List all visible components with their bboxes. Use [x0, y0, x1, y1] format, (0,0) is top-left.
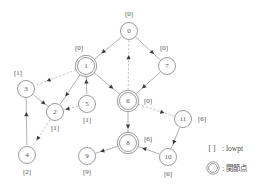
edge-line-back: [32, 120, 50, 147]
edge-0-1: [94, 37, 121, 59]
legend-label-articulation-point: 関節点: [226, 163, 248, 173]
legend-bracket-icon: [ ]: [209, 144, 216, 153]
lowpt-label-10: [6]: [164, 170, 172, 178]
lowpt-label-4: [2]: [23, 168, 31, 176]
legend-double-circle-inner-icon: [209, 164, 218, 173]
edge-arrow-icon: [84, 79, 88, 83]
edge-line-tree: [136, 37, 160, 59]
edge-arrow-icon: [126, 124, 130, 128]
edges-layer: [24, 37, 179, 154]
edge-4-3: [24, 98, 28, 145]
graph-node-11[interactable]: 11: [175, 111, 192, 128]
edge-arrow-icon: [126, 55, 130, 59]
node-label: 5: [85, 100, 89, 108]
graph-node-0[interactable]: 0: [121, 23, 138, 40]
edge-1-6: [94, 73, 120, 94]
legend-label-lowpt: lowpt: [226, 144, 244, 153]
node-label: 11: [180, 115, 187, 123]
lowpt-label-3: [1]: [14, 69, 22, 77]
node-label: 4: [25, 151, 29, 159]
node-label: 3: [24, 85, 28, 93]
edge-0-7: [136, 37, 160, 59]
edge-8-9: [96, 146, 118, 153]
edge-arrow-icon: [65, 92, 69, 97]
edge-arrow-icon: [41, 100, 46, 104]
edge-line-back: [128, 40, 129, 90]
edge-3-2: [33, 95, 47, 106]
graph-node-10[interactable]: 10: [160, 149, 177, 166]
edge-line-back: [138, 104, 174, 116]
edge-arrow-icon: [65, 106, 70, 110]
edge-1-2: [60, 75, 80, 104]
edge-10-8: [138, 147, 159, 154]
edge-line-tree: [94, 73, 120, 94]
node-label: 7: [165, 62, 169, 70]
node-label: 2: [53, 108, 57, 116]
legend-separator-2: :: [222, 164, 224, 173]
graph-node-3[interactable]: 3: [18, 81, 35, 98]
node-label: 8: [126, 139, 130, 147]
graph-node-8[interactable]: 8: [117, 132, 138, 153]
edge-line-tree: [96, 146, 118, 153]
edge-line-tree: [60, 75, 80, 104]
lowpt-label-9: [9]: [83, 168, 91, 176]
graph-node-9[interactable]: 9: [79, 148, 96, 165]
edge-arrow-icon: [46, 78, 51, 82]
lowpt-label-0: [0]: [125, 10, 133, 18]
legend-separator-1: :: [222, 144, 224, 153]
lowpt-label-5: [1]: [83, 116, 91, 124]
node-label: 1: [84, 62, 88, 70]
node-label: 0: [127, 27, 131, 35]
edge-line-tree: [26, 98, 27, 145]
lowpt-label-11: [6]: [198, 115, 206, 123]
lowpt-label-6: [0]: [144, 97, 152, 105]
edge-6-0: [126, 40, 130, 90]
node-label: 6: [126, 97, 130, 105]
lowpt-label-1: [0]: [75, 44, 83, 52]
edge-6-11: [138, 104, 174, 116]
lowpt-label-7: [0]: [160, 44, 168, 52]
node-label: 9: [85, 152, 89, 160]
legend-layer: [ ]:lowpt:関節点: [207, 144, 248, 175]
lowpt-label-8: [6]: [144, 135, 152, 143]
lowpt-label-2: [1]: [51, 124, 59, 132]
diagram-canvas: 0[0]1[0]2[1]3[1]4[2]5[1]6[0]7[0]8[6]9[9]…: [0, 0, 268, 188]
edge-line-tree: [136, 72, 160, 94]
node-label: 10: [165, 153, 173, 161]
edge-5-1: [84, 77, 88, 95]
edge-arrow-icon: [160, 110, 165, 114]
edge-arrow-icon: [24, 112, 28, 116]
edge-line-tree: [171, 128, 179, 149]
edge-line-tree: [33, 95, 47, 106]
graph-node-4[interactable]: 4: [19, 147, 36, 164]
edge-5-2: [64, 106, 78, 110]
edge-arrow-icon: [101, 49, 106, 53]
edge-2-4: [32, 120, 50, 147]
graph-node-1[interactable]: 1: [75, 55, 96, 76]
edge-arrow-icon: [142, 147, 147, 151]
graph-node-6[interactable]: 6: [117, 90, 138, 111]
graph-node-7[interactable]: 7: [159, 58, 176, 75]
edge-11-10: [171, 128, 179, 149]
edge-7-6: [136, 72, 160, 94]
edge-1-3: [35, 70, 76, 86]
edge-6-8: [126, 112, 130, 133]
edge-line-tree: [138, 147, 159, 154]
edge-arrow-icon: [37, 136, 41, 141]
nodes-layer: 0[0]1[0]2[1]3[1]4[2]5[1]6[0]7[0]8[6]9[9]…: [14, 10, 206, 178]
graph-svg: 0[0]1[0]2[1]3[1]4[2]5[1]6[0]7[0]8[6]9[9]…: [0, 0, 268, 188]
edge-line-tree: [94, 37, 121, 59]
graph-node-2[interactable]: 2: [47, 104, 64, 121]
graph-node-5[interactable]: 5: [79, 96, 96, 113]
edge-line-back: [35, 70, 76, 86]
